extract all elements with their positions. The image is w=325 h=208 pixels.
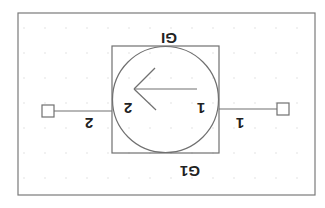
port-2-terminal[interactable] <box>42 105 54 117</box>
instance-label-bottom: G1 <box>180 163 200 180</box>
pin-label-left-outer: 2 <box>85 115 93 132</box>
pin-label-right-outer: 1 <box>236 115 244 132</box>
instance-label-top: GI <box>161 30 177 47</box>
schematic-canvas: GI G1 2 1 2 1 <box>0 0 325 208</box>
pin-label-right-inner: 1 <box>197 100 205 117</box>
port-1-terminal[interactable] <box>277 103 289 115</box>
pin-label-left-inner: 2 <box>124 100 132 117</box>
